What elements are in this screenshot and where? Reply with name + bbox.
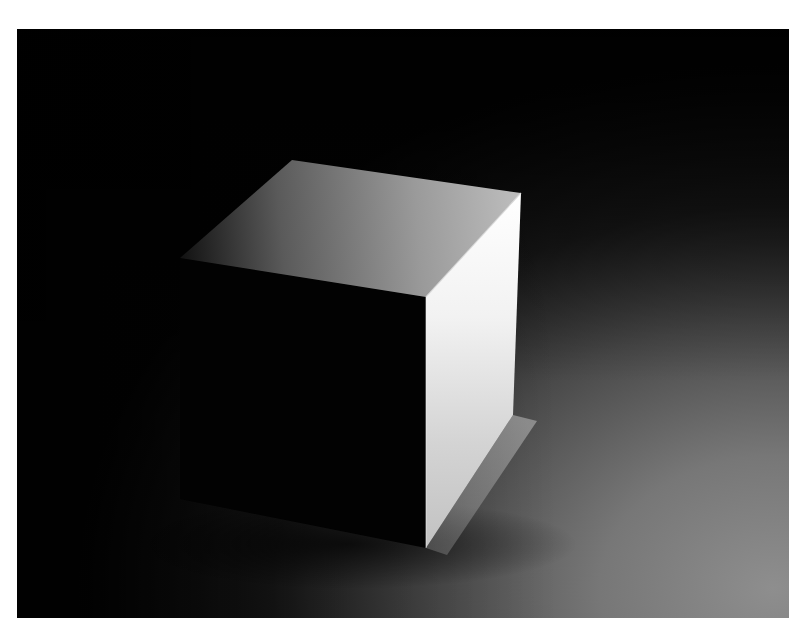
cube-front-face: [180, 258, 426, 548]
image-caption-area: [17, 620, 789, 634]
photo-frame: [17, 29, 789, 618]
cube-render: [17, 29, 789, 618]
